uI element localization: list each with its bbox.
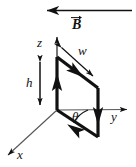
diagram-canvas <box>0 0 136 167</box>
y-axis-label: y <box>111 110 117 123</box>
current-loop <box>57 57 98 137</box>
current-direction-arrowheads <box>52 62 103 138</box>
z-axis-label: z <box>37 36 42 49</box>
coordinate-axes <box>8 37 127 155</box>
height-dimension-label: h <box>26 76 33 89</box>
vector-arrow-overbar-icon <box>71 15 82 20</box>
width-dimension-label: w <box>78 44 87 57</box>
x-axis-line <box>8 110 57 155</box>
physics-diagram-figure: B z y x h w θ <box>0 0 136 167</box>
x-axis-label: x <box>17 148 23 161</box>
b-field-label: B <box>72 15 81 32</box>
theta-angle-label: θ <box>72 110 78 123</box>
